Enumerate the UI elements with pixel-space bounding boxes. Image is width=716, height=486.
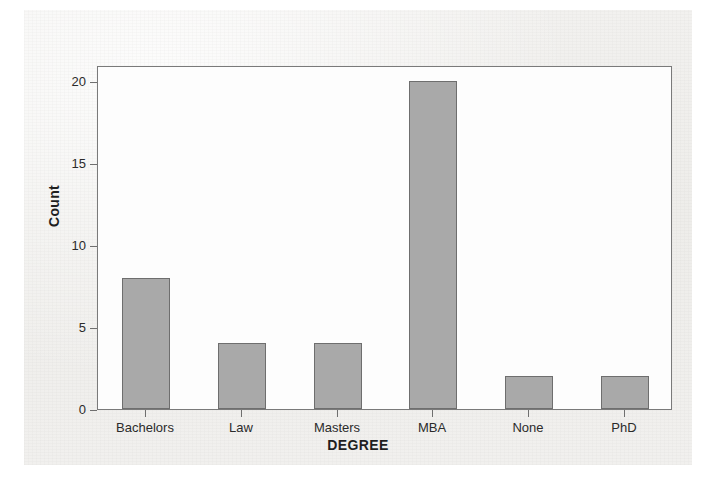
bar-none	[505, 376, 553, 409]
x-tick-label: Bachelors	[90, 421, 200, 434]
x-tick-label: None	[473, 421, 583, 434]
x-tick-label: PhD	[569, 421, 679, 434]
plot-frame	[97, 66, 672, 410]
x-tick-label: MBA	[377, 421, 487, 434]
y-axis-title: Count	[46, 166, 62, 246]
y-tick-label: 10	[52, 239, 86, 252]
bar-phd	[601, 376, 649, 409]
x-tick-mark	[241, 410, 242, 417]
x-tick-mark	[145, 410, 146, 417]
y-tick-mark	[90, 246, 97, 247]
x-tick-mark	[337, 410, 338, 417]
y-tick-mark	[90, 164, 97, 165]
y-tick-label: 0	[52, 403, 86, 416]
y-tick-label: 15	[52, 157, 86, 170]
x-tick-label: Law	[186, 421, 296, 434]
x-axis-title: DEGREE	[0, 437, 716, 453]
x-tick-mark	[528, 410, 529, 417]
y-tick-label: 20	[52, 75, 86, 88]
bar-mba	[409, 81, 457, 409]
plot-area	[98, 67, 671, 409]
y-tick-mark	[90, 410, 97, 411]
y-tick-mark	[90, 82, 97, 83]
bar-law	[218, 343, 266, 409]
scanned-page: Count 05101520 BachelorsLawMastersMBANon…	[0, 0, 716, 486]
x-tick-mark	[432, 410, 433, 417]
x-tick-label: Masters	[282, 421, 392, 434]
y-tick-mark	[90, 328, 97, 329]
x-tick-mark	[624, 410, 625, 417]
y-tick-label: 5	[52, 321, 86, 334]
bar-chart: Count 05101520 BachelorsLawMastersMBANon…	[0, 0, 716, 486]
bar-masters	[314, 343, 362, 409]
bar-bachelors	[122, 278, 170, 409]
